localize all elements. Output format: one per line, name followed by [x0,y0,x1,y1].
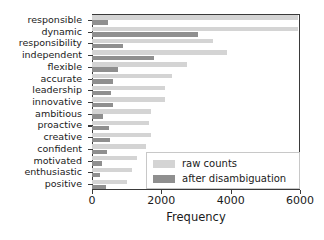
bar-raw-counts [92,39,213,43]
x-axis-tick-label: 2000 [147,194,175,207]
bar-after-disambiguation [92,161,102,165]
bar-after-disambiguation [92,173,100,177]
y-axis-tick-label: motivated [34,156,82,166]
y-axis-tick-mark [88,32,92,33]
bar-raw-counts [92,86,165,90]
y-axis-tick-label: leadership [32,85,82,95]
bar-row [92,14,300,26]
x-axis-tick-mark [231,190,232,194]
y-axis-tick-labels: responsibledynamicresponsibilityindepend… [0,14,88,190]
y-axis-tick-label: innovative [32,97,82,107]
x-axis-title: Frequency [166,210,225,224]
bar-raw-counts [92,121,149,125]
bar-after-disambiguation [92,126,109,130]
bar-after-disambiguation [92,67,118,71]
bar-row [92,108,300,120]
y-axis-tick-mark [88,161,92,162]
bar-after-disambiguation [92,56,154,60]
y-axis-tick-mark [88,184,92,185]
bar-row [92,96,300,108]
bar-raw-counts [92,50,227,54]
legend-label: raw counts [182,158,237,169]
legend-swatch-icon [153,160,175,168]
y-axis-tick-mark [88,172,92,173]
bar-row [92,84,300,96]
y-axis-tick-label: responsibility [19,38,82,48]
bar-row [92,61,300,73]
bar-after-disambiguation [92,20,108,24]
y-axis-tick-mark [88,102,92,103]
bar-raw-counts [92,97,165,101]
x-axis-tick-label: 4000 [217,194,245,207]
bar-after-disambiguation [92,103,113,107]
bar-row [92,73,300,85]
y-axis-tick-label: dynamic [41,27,82,37]
y-axis-tick-label: positive [45,179,82,189]
y-axis-tick-mark [88,67,92,68]
y-axis-tick-mark [88,55,92,56]
bar-after-disambiguation [92,44,123,48]
legend-label: after disambiguation [182,173,286,184]
bar-after-disambiguation [92,114,103,118]
y-axis-tick-mark [88,114,92,115]
bar-raw-counts [92,144,146,148]
legend-swatch-icon [153,175,175,183]
bar-raw-counts [92,15,298,19]
y-axis-tick-mark [88,43,92,44]
y-axis-tick-mark [88,20,92,21]
legend-item-after-disambiguation: after disambiguation [153,173,286,184]
y-axis-tick-label: ambitious [35,109,82,119]
bar-after-disambiguation [92,150,107,154]
y-axis-tick-mark [88,149,92,150]
bar-after-disambiguation [92,32,198,36]
chart-root: responsibledynamicresponsibilityindepend… [0,0,324,240]
bar-after-disambiguation [92,91,111,95]
x-axis-tick-mark [92,190,93,194]
bar-row [92,49,300,61]
bar-row [92,131,300,143]
y-axis-tick-mark [88,137,92,138]
bar-raw-counts [92,168,132,172]
bar-after-disambiguation [92,185,106,189]
bar-raw-counts [92,133,151,137]
x-axis-tick-mark [300,190,301,194]
bar-raw-counts [92,62,187,66]
y-axis-tick-label: accurate [40,74,82,84]
x-axis-tick-mark [161,190,162,194]
bar-after-disambiguation [92,138,110,142]
y-axis-tick-label: responsible [28,15,82,25]
y-axis-tick-label: flexible [48,62,82,72]
y-axis-tick-label: proactive [38,120,82,130]
legend-item-raw-counts: raw counts [153,158,237,169]
bar-row [92,26,300,38]
y-axis-tick-label: confident [37,144,82,154]
y-axis-tick-mark [88,125,92,126]
y-axis-tick-label: enthusiastic [24,167,82,177]
bar-raw-counts [92,74,172,78]
x-axis-tick-label: 0 [89,194,96,207]
y-axis-tick-mark [88,79,92,80]
x-axis-tick-label: 6000 [286,194,314,207]
bar-raw-counts [92,180,127,184]
bar-row [92,120,300,132]
bar-raw-counts [92,156,137,160]
y-axis-tick-label: independent [22,50,82,60]
y-axis-tick-label: creative [44,132,82,142]
chart-legend: raw counts after disambiguation [146,152,300,189]
y-axis-tick-mark [88,90,92,91]
bar-after-disambiguation [92,79,113,83]
bar-raw-counts [92,109,151,113]
bar-row [92,37,300,49]
bar-raw-counts [92,27,298,31]
